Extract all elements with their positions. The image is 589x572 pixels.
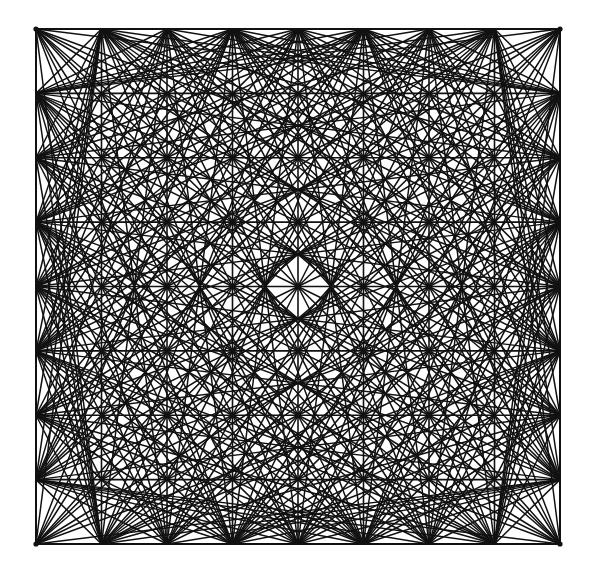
grid-visibility-graph-canvas	[0, 0, 589, 572]
figure-container	[0, 0, 589, 572]
